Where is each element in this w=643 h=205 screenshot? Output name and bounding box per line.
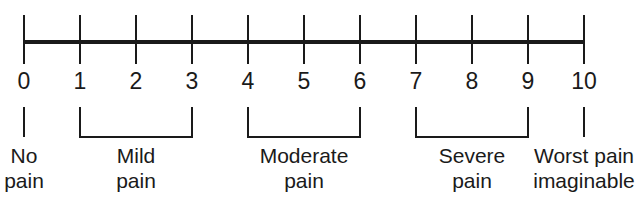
bracket-mild-pain <box>80 107 192 137</box>
category-label-line2: imaginable <box>533 168 635 193</box>
category-label-worst-pain: Worst painimaginable <box>533 143 635 193</box>
tick-label-0[interactable]: 0 <box>0 70 54 93</box>
category-label-line1: Moderate <box>260 143 349 168</box>
tick-label-5[interactable]: 5 <box>274 70 334 93</box>
tick-label-2[interactable]: 2 <box>106 70 166 93</box>
category-label-mild-pain: Mildpain <box>116 143 156 193</box>
category-label-no-pain: Nopain <box>4 143 44 193</box>
category-label-line1: No <box>4 143 44 168</box>
pain-scale-figure: 012345678910 NopainMildpainModeratepainS… <box>0 0 643 205</box>
bracket-severe-pain <box>416 107 528 137</box>
bracket-path <box>416 107 528 137</box>
category-label-line1: Worst pain <box>533 143 635 168</box>
tick-label-7[interactable]: 7 <box>386 70 446 93</box>
tick-label-4[interactable]: 4 <box>218 70 278 93</box>
category-label-line1: Severe <box>439 143 506 168</box>
tick-label-1[interactable]: 1 <box>50 70 110 93</box>
axis-group <box>24 15 584 64</box>
bracket-path <box>248 107 360 137</box>
category-label-line1: Mild <box>116 143 156 168</box>
tick-label-3[interactable]: 3 <box>162 70 222 93</box>
tick-label-10[interactable]: 10 <box>554 70 614 93</box>
bracket-group <box>24 107 584 137</box>
bracket-path <box>80 107 192 137</box>
category-label-severe-pain: Severepain <box>439 143 506 193</box>
category-label-moderate-pain: Moderatepain <box>260 143 349 193</box>
bracket-moderate-pain <box>248 107 360 137</box>
category-label-line2: pain <box>260 168 349 193</box>
category-label-line2: pain <box>116 168 156 193</box>
tick-label-6[interactable]: 6 <box>330 70 390 93</box>
category-label-line2: pain <box>439 168 506 193</box>
tick-label-9[interactable]: 9 <box>498 70 558 93</box>
tick-label-8[interactable]: 8 <box>442 70 502 93</box>
category-label-line2: pain <box>4 168 44 193</box>
